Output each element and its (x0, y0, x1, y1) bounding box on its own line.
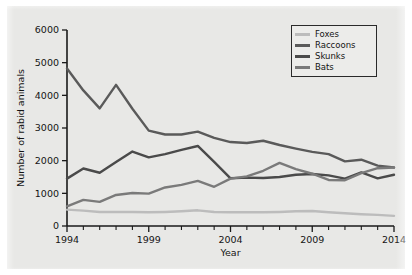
series-line-foxes (67, 210, 394, 216)
legend-swatch-skunks (295, 55, 310, 58)
y-tick-label: 6000 (35, 24, 59, 35)
legend-item-skunks: Skunks (295, 51, 372, 62)
legend-swatch-raccoons (295, 44, 310, 47)
x-tick-label: 1994 (55, 234, 79, 245)
legend-swatch-foxes (295, 33, 310, 36)
y-tick-label: 3000 (35, 122, 59, 133)
y-tick-label: 4000 (35, 90, 59, 101)
series-lines (67, 69, 394, 216)
x-tick-label: 2004 (218, 234, 242, 245)
chart-legend: Foxes Raccoons Skunks Bats (291, 25, 377, 77)
rabid-animals-line-chart: 0100020003000400050006000 19941999200420… (0, 0, 412, 275)
x-tick-label: 2014 (382, 234, 406, 245)
y-tick-label: 0 (53, 220, 59, 231)
x-axis-title: Year (219, 247, 240, 258)
y-tick-label: 5000 (35, 57, 59, 68)
legend-item-raccoons: Raccoons (295, 40, 372, 51)
legend-swatch-bats (295, 66, 310, 69)
legend-item-bats: Bats (295, 62, 372, 73)
y-tick-label: 1000 (35, 188, 59, 199)
legend-label-raccoons: Raccoons (315, 40, 356, 51)
series-line-bats (67, 163, 394, 206)
series-line-raccoons (67, 69, 394, 168)
x-tick-label: 1999 (137, 234, 161, 245)
y-tick-label: 2000 (35, 155, 59, 166)
legend-label-skunks: Skunks (315, 51, 345, 62)
legend-label-foxes: Foxes (315, 29, 339, 40)
y-axis-title: Number of rabid animals (15, 69, 26, 187)
legend-item-foxes: Foxes (295, 29, 372, 40)
x-axis-tick-labels: 19941999200420092014 (55, 234, 406, 245)
x-axis-ticks (67, 226, 394, 232)
x-tick-label: 2009 (300, 234, 324, 245)
legend-label-bats: Bats (315, 62, 334, 73)
y-axis-tick-labels: 0100020003000400050006000 (35, 24, 59, 231)
